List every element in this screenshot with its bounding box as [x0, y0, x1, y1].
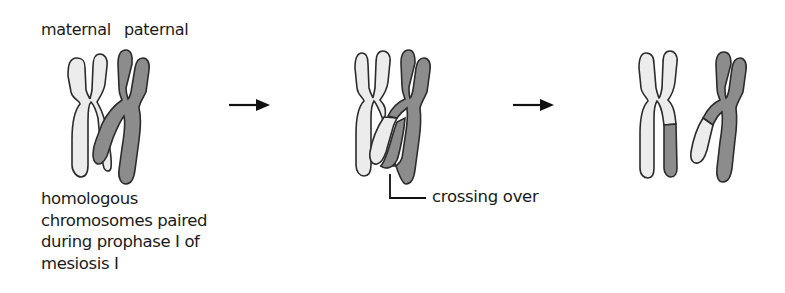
arrow-right-icon	[229, 99, 270, 111]
stage-1-homologous-pair	[68, 50, 149, 184]
caption-line: homologous	[41, 188, 207, 210]
stage-2-crossing-over	[355, 50, 430, 198]
arrow-right-icon	[513, 99, 554, 111]
caption-line: mesiosis I	[41, 253, 207, 275]
recombinant-paternal-chromosome	[691, 52, 746, 182]
maternal-label: maternal	[41, 20, 111, 40]
paternal-label: paternal	[124, 20, 188, 40]
stage-1-caption: homologous chromosomes paired during pro…	[41, 188, 207, 274]
stage-3-recombinant-chromosomes	[639, 51, 746, 182]
recombinant-maternal-chromosome	[639, 51, 677, 178]
caption-line: during prophase I of	[41, 231, 207, 253]
caption-line: chromosomes paired	[41, 210, 207, 232]
crossing-over-label: crossing over	[432, 187, 538, 207]
